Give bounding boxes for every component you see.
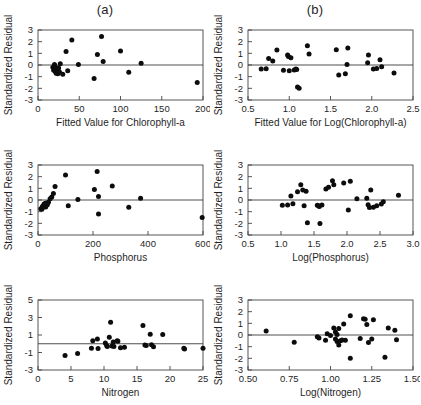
x-axis-title: Fitted Value for Chlorophyll-a: [56, 117, 185, 128]
data-point: [378, 57, 383, 62]
x-tick-label: 1.0: [274, 238, 287, 249]
y-tick-label: -3: [25, 94, 33, 105]
data-point: [316, 335, 321, 340]
data-point: [138, 196, 143, 201]
y-tick-label: 0: [238, 59, 243, 70]
residual-plot-figure: (a)-3-2-10123050100150200Fitted Value fo…: [0, 0, 421, 405]
data-point: [334, 47, 339, 52]
data-point: [292, 340, 297, 345]
y-tick-label: -2: [235, 218, 243, 229]
x-tick-label: 1.50: [404, 373, 420, 384]
data-point: [285, 202, 290, 207]
y-tick-label: 1: [238, 318, 243, 329]
data-point: [366, 53, 371, 58]
x-tick-label: 0.50: [239, 373, 258, 384]
data-point: [368, 188, 373, 193]
data-point: [69, 37, 74, 42]
x-axis-title: Log(Phosphorus): [292, 252, 369, 263]
data-point: [346, 207, 351, 212]
data-point: [335, 332, 340, 337]
panel-label: (a): [0, 2, 210, 17]
data-point: [259, 67, 264, 72]
data-point: [75, 351, 80, 356]
x-tick-label: 5: [68, 373, 73, 384]
data-point: [392, 70, 397, 75]
y-tick-label: 2: [28, 36, 33, 47]
data-point: [122, 345, 127, 350]
y-tick-label: -2: [25, 218, 33, 229]
scatter-panel-top-right: (b)-3-2-101230.51.01.52.02.5Fitted Value…: [210, 0, 420, 135]
data-point: [96, 346, 101, 351]
data-point: [140, 323, 145, 328]
data-point: [305, 220, 310, 225]
data-point: [348, 356, 353, 361]
data-point: [92, 187, 97, 192]
data-point: [95, 336, 100, 341]
x-tick-label: 150: [154, 103, 170, 114]
data-point: [396, 193, 401, 198]
y-tick-label: 3: [238, 294, 243, 305]
scatter-panel-bottom-left: -3-11350510152025NitrogenStandardized Re…: [0, 270, 210, 405]
data-point: [182, 347, 187, 352]
x-tick-label: 3.0: [406, 238, 419, 249]
data-point: [307, 51, 312, 56]
x-tick-label: 0.5: [241, 238, 254, 249]
data-point: [89, 346, 94, 351]
y-tick-label: 5: [28, 294, 33, 305]
x-tick-label: 400: [140, 238, 156, 249]
y-tick-label: 1: [28, 329, 33, 340]
y-tick-label: -2: [25, 83, 33, 94]
x-tick-label: 600: [195, 238, 210, 249]
y-tick-label: -2: [235, 353, 243, 364]
x-tick-label: 1.0: [283, 103, 296, 114]
x-tick-label: 10: [99, 373, 110, 384]
scatter-plot-top-left: -3-2-10123050100150200Fitted Value for C…: [0, 0, 210, 135]
x-tick-label: 1.00: [321, 373, 340, 384]
data-point: [111, 344, 116, 349]
data-point: [63, 353, 68, 358]
y-tick-label: -2: [235, 83, 243, 94]
scatter-panel-middle-right: -3-2-101230.51.01.52.02.53.0Log(Phosphor…: [210, 135, 420, 270]
data-point: [317, 221, 322, 226]
y-tick-label: 2: [238, 171, 243, 182]
data-point: [364, 196, 369, 201]
x-tick-label: 1.5: [324, 103, 337, 114]
x-tick-label: 100: [113, 103, 129, 114]
x-tick-label: 1.25: [363, 373, 382, 384]
data-point: [354, 196, 359, 201]
x-tick-label: 15: [132, 373, 143, 384]
data-point: [341, 321, 346, 326]
data-point: [90, 338, 95, 343]
y-tick-label: 3: [238, 24, 243, 35]
data-point: [288, 55, 293, 60]
data-point: [96, 212, 101, 217]
data-point: [288, 193, 293, 198]
data-point: [343, 338, 348, 343]
x-tick-label: 50: [74, 103, 85, 114]
data-point: [392, 328, 397, 333]
data-point: [348, 313, 353, 318]
x-tick-label: 0.75: [280, 373, 299, 384]
data-point: [280, 203, 285, 208]
data-point: [200, 215, 205, 220]
data-point: [274, 48, 279, 53]
y-tick-label: -1: [235, 341, 243, 352]
data-point: [304, 189, 309, 194]
y-tick-label: 3: [28, 159, 33, 170]
y-tick-label: 1: [28, 183, 33, 194]
data-point: [343, 71, 348, 76]
data-point: [66, 203, 71, 208]
data-point: [58, 61, 63, 66]
data-point: [345, 46, 350, 51]
y-tick-label: 2: [28, 171, 33, 182]
data-point: [126, 205, 131, 210]
data-point: [331, 182, 336, 187]
scatter-plot-middle-left: -3-2-101230200400600PhosphorusStandardiz…: [0, 135, 210, 270]
data-point: [95, 169, 100, 174]
panel-label: (b): [210, 2, 420, 17]
data-point: [151, 344, 156, 349]
data-point: [105, 344, 110, 349]
data-point: [290, 201, 295, 206]
x-axis-title: Fitted Value for Log(Chlorophyll-a): [254, 117, 406, 128]
x-tick-label: 0: [35, 103, 40, 114]
